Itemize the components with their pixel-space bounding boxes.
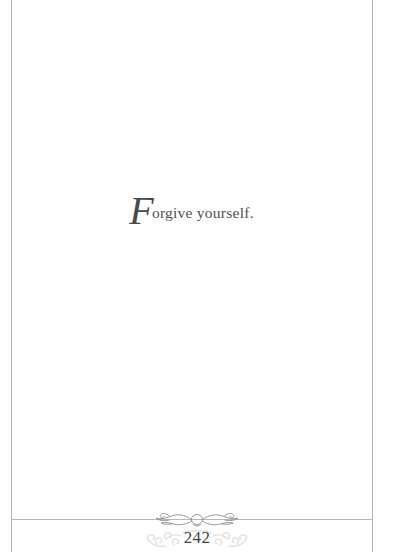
page-border-left-rule: [11, 0, 12, 552]
quote-block: Forgive yourself.: [11, 205, 372, 221]
page-number: 242: [0, 528, 394, 548]
quote-text: orgive yourself.: [152, 204, 254, 221]
drop-cap-initial: F: [129, 188, 154, 233]
book-page: Forgive yourself.: [0, 0, 394, 552]
folio-area: 242: [0, 527, 394, 552]
quote-line: Forgive yourself.: [129, 205, 254, 221]
page-border-right-rule: [372, 0, 373, 552]
page-footer: 242: [0, 505, 394, 552]
